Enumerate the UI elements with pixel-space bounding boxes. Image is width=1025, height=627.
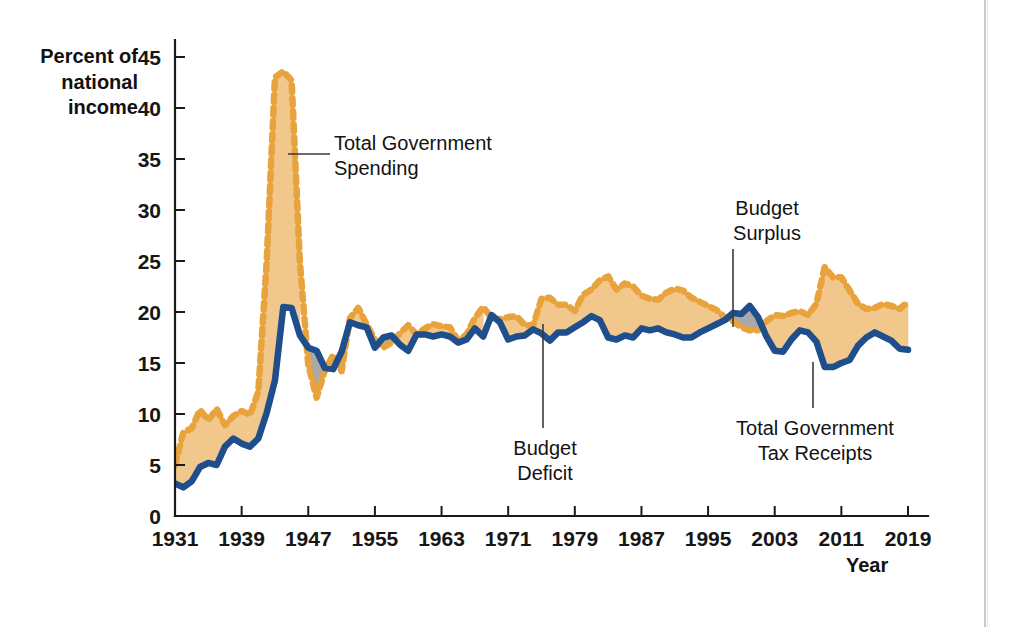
page-edge-line-inner <box>987 0 988 627</box>
y-tick-label: 45 <box>138 46 162 69</box>
x-axis-tick-labels: 1931193919471955196319711979198719952003… <box>152 527 932 550</box>
chart-plot-area: 051015202530354045 193119391947195519631… <box>0 0 1025 627</box>
x-tick-label: 1963 <box>418 527 465 550</box>
y-tick-label: 20 <box>138 301 161 324</box>
y-tick-label: 5 <box>149 454 161 477</box>
y-tick-label: 35 <box>138 148 162 171</box>
annotation-budget-surplus: Budget Surplus <box>700 196 834 246</box>
annotation-total-government-spending: Total Government Spending <box>334 131 492 181</box>
x-axis-ticks <box>242 506 908 516</box>
annotation-budget-deficit: Budget Deficit <box>493 436 597 486</box>
x-tick-label: 2011 <box>819 527 865 550</box>
y-axis-tick-labels: 051015202530354045 <box>138 46 162 528</box>
y-tick-label: 15 <box>138 352 162 375</box>
chart-figure: Percent of national income Year Total Go… <box>0 0 1025 627</box>
x-tick-label: 1947 <box>285 527 332 550</box>
y-tick-label: 10 <box>138 403 161 426</box>
x-tick-label: 1939 <box>218 527 265 550</box>
x-tick-label: 2019 <box>885 527 932 550</box>
x-tick-label: 1995 <box>685 527 732 550</box>
x-tick-label: 1987 <box>618 527 665 550</box>
page-edge-line <box>984 0 986 627</box>
y-tick-label: 30 <box>138 199 161 222</box>
x-tick-label: 1931 <box>152 527 199 550</box>
y-axis-ticks <box>175 57 185 465</box>
x-tick-label: 1979 <box>551 527 598 550</box>
x-tick-label: 2003 <box>751 527 798 550</box>
y-tick-label: 0 <box>149 505 161 528</box>
y-axis-title: Percent of national income <box>18 44 138 121</box>
x-axis-title: Year <box>846 553 888 579</box>
annotation-total-government-tax-receipts: Total Government Tax Receipts <box>720 416 910 466</box>
y-tick-label: 25 <box>138 250 162 273</box>
x-tick-label: 1955 <box>352 527 399 550</box>
x-tick-label: 1971 <box>485 527 532 550</box>
y-tick-label: 40 <box>138 97 161 120</box>
